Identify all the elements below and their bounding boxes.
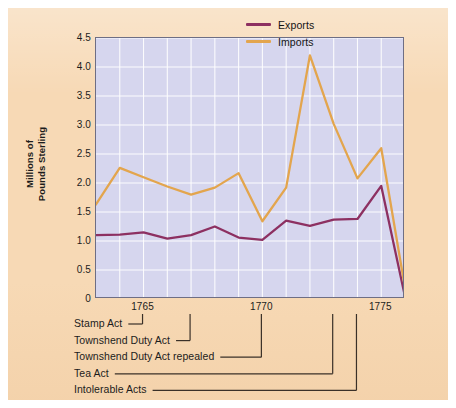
- y-axis-tick-label: 1.5: [65, 206, 91, 217]
- y-axis-tick-label: 2.0: [65, 177, 91, 188]
- annotation-label: Tea Act: [74, 367, 109, 379]
- legend-label: Exports: [278, 19, 314, 31]
- y-axis-tick-label: 3.0: [65, 119, 91, 130]
- annotation-label: Stamp Act: [74, 317, 122, 329]
- plot-area-wrapper: [95, 37, 404, 298]
- y-axis-tick-label: 0.5: [65, 264, 91, 275]
- y-axis-tick-label: 2.5: [65, 148, 91, 159]
- legend-swatch: [246, 23, 271, 26]
- annotation-label: Intolerable Acts: [74, 383, 147, 395]
- y-axis-tick-label: 4.0: [65, 61, 91, 72]
- x-axis-tick-label: 1770: [250, 301, 273, 312]
- y-axis-tick-label: 3.5: [65, 90, 91, 101]
- y-axis-tick-label: 0: [65, 293, 91, 304]
- y-axis-title: Millions of Pounds Sterling: [24, 99, 64, 229]
- y-axis-tick-labels: 4.54.03.53.02.52.01.51.00.50: [61, 37, 91, 298]
- legend: ExportsImports: [246, 16, 338, 50]
- y-axis-title-line-2: Pounds Sterling: [36, 99, 48, 229]
- legend-item: Exports: [246, 16, 338, 33]
- x-axis-tick-label: 1765: [131, 301, 154, 312]
- annotation-label: Townshend Duty Act: [74, 334, 170, 346]
- x-axis-tick-label: 1775: [369, 301, 392, 312]
- legend-label: Imports: [278, 36, 314, 48]
- legend-item: Imports: [246, 33, 338, 50]
- plot-area: [95, 37, 404, 298]
- chart-page: Millions of Pounds Sterling 4.54.03.53.0…: [0, 0, 456, 408]
- y-axis-tick-label: 1.0: [65, 235, 91, 246]
- legend-swatch: [246, 40, 271, 43]
- y-axis-title-line-1: Millions of: [24, 99, 36, 229]
- chart-panel: Millions of Pounds Sterling 4.54.03.53.0…: [8, 8, 448, 400]
- plot-svg: [96, 38, 404, 298]
- y-axis-tick-label: 4.5: [65, 32, 91, 43]
- annotation-label: Townshend Duty Act repealed: [74, 350, 214, 362]
- event-annotations: Stamp ActTownshend Duty ActTownshend Dut…: [8, 314, 448, 400]
